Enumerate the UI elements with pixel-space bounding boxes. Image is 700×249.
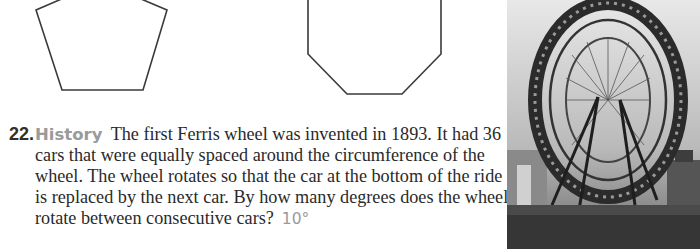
topic-label: History (35, 125, 102, 144)
problem-line-1: History The first Ferris wheel was inven… (35, 124, 509, 145)
exercise-number: 22. (9, 124, 34, 145)
octagon-figure (308, 0, 441, 94)
problem-line-5: rotate between consecutive cars?10° (35, 208, 509, 230)
problem-line-3: wheel. The wheel rotates so that the car… (35, 166, 509, 187)
ferris-wheel-photo (507, 0, 700, 249)
answer-text: 10° (282, 210, 309, 228)
problem-line-4: is replaced by the next car. By how many… (35, 187, 509, 208)
polygon-figures (0, 0, 507, 120)
problem-line-2: cars that were equally spaced around the… (35, 145, 509, 166)
exercise-22: 22. History The first Ferris wheel was i… (9, 124, 509, 230)
pentagon-figure (36, 0, 167, 90)
